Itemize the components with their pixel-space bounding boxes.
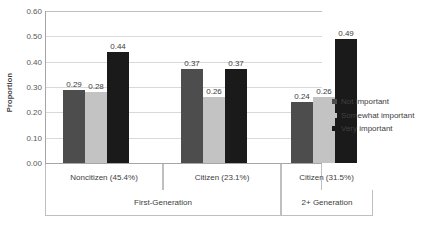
bar — [63, 90, 85, 163]
y-axis-tick-label: 0.40 — [14, 57, 42, 66]
bar-group: 0.290.280.44 — [63, 11, 129, 163]
y-axis-tick-label: 0.20 — [14, 108, 42, 117]
y-axis-tick-label: 0.30 — [14, 83, 42, 92]
bar-chart: Proportion 0.600.500.400.300.200.100.00 … — [0, 0, 435, 230]
x-axis-group-label: 2+ Generation — [302, 198, 353, 207]
legend-item[interactable]: Very important — [332, 124, 414, 133]
y-axis-tick-label: 0.10 — [14, 133, 42, 142]
bar — [225, 69, 247, 163]
x-axis-category-label: Citizen (23.1%) — [195, 173, 250, 182]
bar — [203, 97, 225, 163]
bar — [85, 92, 107, 163]
legend: Not importantSomewhat importantVery impo… — [332, 97, 414, 133]
legend-item[interactable]: Not important — [332, 97, 414, 106]
x-axis-group-label: First-Generation — [134, 198, 192, 207]
bar — [107, 52, 129, 163]
x-axis-group-cell: 2+ Generation — [281, 190, 373, 216]
y-axis-title: Proportion — [5, 63, 14, 123]
x-axis-category-label: Citizen (31.5%) — [299, 173, 354, 182]
bar-value-label: 0.37 — [172, 59, 212, 68]
x-axis: Noncitizen (45.4%)Citizen (23.1%)Citizen… — [45, 164, 322, 220]
y-axis-tick-label: 0.60 — [14, 7, 42, 16]
x-axis-group-cell: First-Generation — [45, 190, 281, 216]
x-axis-category-cell: Citizen (23.1%) — [163, 164, 281, 190]
legend-swatch-icon — [332, 99, 337, 104]
y-axis-line — [45, 11, 46, 164]
bar — [291, 102, 313, 163]
legend-swatch-icon — [332, 126, 337, 131]
x-axis-category-label: Noncitizen (45.4%) — [70, 173, 138, 182]
legend-label: Very important — [341, 124, 393, 133]
legend-swatch-icon — [332, 113, 337, 118]
x-axis-category-cell: Noncitizen (45.4%) — [45, 164, 163, 190]
plot-area: 0.290.280.440.370.260.370.240.260.49 — [45, 11, 322, 163]
legend-item[interactable]: Somewhat important — [332, 111, 414, 120]
bar-value-label: 0.37 — [216, 59, 256, 68]
legend-label: Not important — [341, 97, 389, 106]
bar-value-label: 0.49 — [326, 29, 366, 38]
y-axis-tick-label: 0.50 — [14, 32, 42, 41]
y-axis-tick-label: 0.00 — [14, 159, 42, 168]
bar-group: 0.370.260.37 — [181, 11, 247, 163]
x-axis-category-cell: Citizen (31.5%) — [281, 164, 322, 190]
legend-label: Somewhat important — [341, 111, 414, 120]
bar-value-label: 0.44 — [98, 42, 138, 51]
bar-group: 0.240.260.49 — [291, 11, 357, 163]
bar — [181, 69, 203, 163]
